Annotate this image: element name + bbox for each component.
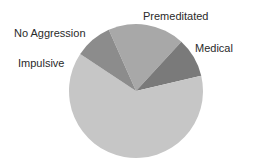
label-no-aggression: No Aggression [14, 27, 86, 39]
label-medical: Medical [195, 42, 233, 54]
label-premeditated: Premeditated [143, 10, 208, 22]
label-impulsive: Impulsive [18, 57, 64, 69]
pie-slices [69, 24, 203, 158]
pie-chart [0, 0, 255, 160]
